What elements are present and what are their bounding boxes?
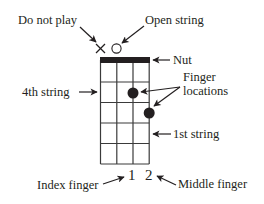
arrow-do-not-play (80, 27, 96, 42)
open-string-circle-icon (112, 44, 121, 53)
arrow-index-finger (103, 177, 124, 184)
label-nut: Nut (173, 53, 192, 67)
arrow-open-string (122, 26, 144, 43)
nut-bar (100, 57, 150, 63)
label-first-string: 1st string (173, 127, 220, 141)
label-finger-locations-2: locations (183, 84, 228, 98)
label-index-finger: Index finger (37, 178, 99, 192)
do-not-play-x-icon (96, 44, 105, 53)
label-open-string: Open string (145, 13, 204, 27)
finger-dot-string2-fret2 (128, 88, 139, 99)
finger-dot-string1-fret3 (144, 108, 155, 119)
fretboard-grid (101, 60, 150, 164)
finger-number-2: 2 (145, 167, 153, 183)
finger-number-1: 1 (128, 167, 136, 183)
label-middle-finger: Middle finger (178, 177, 248, 191)
label-do-not-play: Do not play (18, 13, 78, 27)
arrow-middle-finger (157, 176, 176, 185)
label-fourth-string: 4th string (22, 85, 70, 99)
label-finger-locations-1: Finger (183, 70, 216, 84)
chord-diagram: Do not play Open string Nut Finger locat… (0, 0, 264, 204)
